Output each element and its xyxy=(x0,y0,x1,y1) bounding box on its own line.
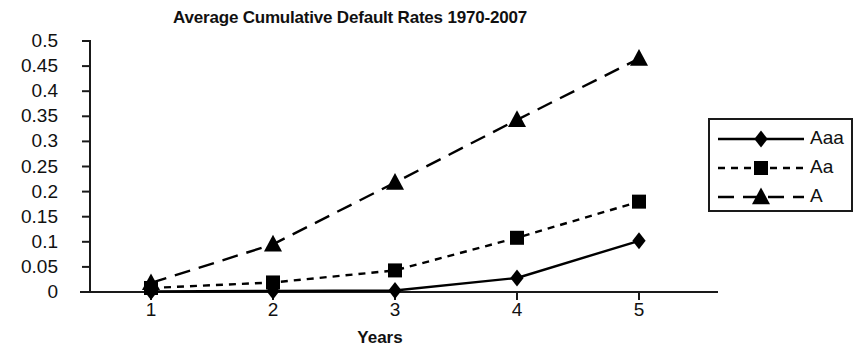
data-point-aa xyxy=(510,231,524,245)
legend-symbol-aa xyxy=(754,161,768,175)
legend-symbol-aaa xyxy=(754,131,767,148)
data-point-aa xyxy=(632,195,646,209)
series-line-a xyxy=(151,59,639,283)
data-point-aaa xyxy=(510,269,523,286)
data-point-a xyxy=(386,173,404,190)
legend-label: Aa xyxy=(810,156,833,178)
data-point-a xyxy=(264,235,282,252)
series-aa xyxy=(144,195,646,295)
legend-item-aa[interactable]: Aa xyxy=(710,153,855,183)
data-point-aa xyxy=(388,263,402,277)
data-point-aaa xyxy=(632,232,645,249)
data-point-a xyxy=(508,110,526,127)
series-a xyxy=(142,49,648,290)
data-point-a xyxy=(630,49,648,66)
legend-marker-square-icon xyxy=(716,153,808,183)
chart-legend: AaaAaA xyxy=(708,118,853,212)
data-point-aa xyxy=(266,275,280,289)
legend-marker-triangle-icon xyxy=(716,182,808,212)
legend-label: Aaa xyxy=(810,127,844,149)
data-point-aaa xyxy=(388,282,401,299)
chart-container: Average Cumulative Default Rates 1970-20… xyxy=(0,0,865,360)
legend-item-a[interactable]: A xyxy=(710,182,855,212)
legend-label: A xyxy=(810,185,823,207)
legend-marker-diamond-icon xyxy=(716,124,808,154)
legend-item-aaa[interactable]: Aaa xyxy=(710,124,855,154)
